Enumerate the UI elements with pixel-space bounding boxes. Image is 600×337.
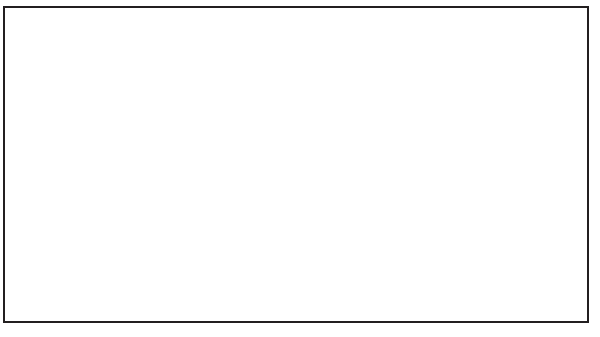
inflation-rate-chart: 0%4%8%12%16%20%24%28%1966'67'68'69'70'71…: [0, 0, 600, 337]
chart-frame-border: [3, 6, 589, 323]
